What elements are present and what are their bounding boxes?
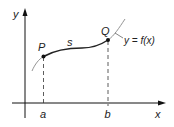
x-axis-label: x: [154, 108, 161, 120]
point-p-label: P: [38, 41, 46, 53]
curve-extension-right: [108, 19, 125, 40]
point-q-label: Q: [101, 25, 110, 37]
point-p: [42, 55, 46, 59]
curve-label: y = f(x): [123, 35, 155, 46]
curve-label-leader: [115, 33, 123, 38]
tick-label-b: b: [105, 108, 111, 120]
curve-extension-left: [32, 57, 44, 72]
arc-length-diagram: y x P Q s y = f(x) a b: [0, 0, 174, 127]
x-axis-arrow-icon: [158, 101, 166, 106]
arc-label: s: [67, 36, 73, 48]
tick-label-a: a: [40, 108, 46, 120]
point-q: [106, 38, 110, 42]
arc-s: [44, 40, 109, 57]
y-axis-label: y: [12, 8, 20, 20]
y-axis-arrow-icon: [23, 8, 28, 16]
